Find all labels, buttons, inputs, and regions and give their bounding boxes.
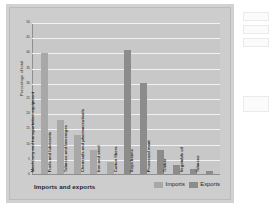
chart-legend: ImportsExports [154, 182, 220, 188]
y-axis-tick-label: 0 [28, 173, 30, 176]
legend-imports[interactable]: Imports [154, 182, 185, 188]
bar-category-label: Cotton fibers [114, 146, 118, 172]
margin-note-box [243, 96, 269, 112]
margin-notes [243, 12, 269, 51]
y-axis-tick-label: 50 [26, 21, 30, 24]
bar-category-label: Soya beans [130, 149, 134, 172]
legend-label: Exports [200, 182, 220, 188]
legend-label: Imports [166, 182, 185, 188]
bar-category-label: Timber [163, 158, 167, 172]
y-axis-title: Percentage of total [20, 61, 24, 96]
x-axis-title: Imports and exports [34, 184, 95, 190]
y-axis-tick-label: 40 [26, 52, 30, 55]
margin-note-box [243, 25, 269, 34]
legend-exports[interactable]: Exports [189, 182, 220, 188]
bar-category-label: Machinery and transportation equipment [31, 92, 35, 172]
y-axis-tick-label: 35 [26, 67, 30, 70]
bar[interactable] [206, 171, 213, 174]
bar-category-label: Tobacco and beverages [64, 125, 68, 172]
bar-slot: Vegetable oil [185, 23, 202, 174]
margin-note-box [243, 12, 269, 21]
bar-category-label: Iron and steel [97, 145, 101, 172]
legend-swatch [154, 182, 163, 188]
x-axis-line [32, 174, 220, 175]
plot-area: 05101520253035404550 Machinery and trans… [32, 23, 220, 175]
bar-slot: Tobacco [201, 23, 218, 174]
bar-slot: Processed meat [152, 23, 169, 174]
y-axis-tick-label: 30 [26, 82, 30, 85]
margin-note-box [243, 38, 269, 47]
chart-screenshot: Percentage of total 05101520253035404550… [0, 0, 273, 207]
chart-figure: Percentage of total 05101520253035404550… [9, 7, 231, 200]
bar-group: Machinery and transportation equipmentFu… [33, 23, 220, 174]
bar-category-label: Fuels and lubricants [47, 132, 51, 172]
bar-category-label: Tobacco [196, 155, 200, 172]
bar-category-label: Vegetable oil [180, 147, 184, 172]
legend-swatch [189, 182, 198, 188]
y-axis-tick-label: 45 [26, 36, 30, 39]
bar-category-label: Processed meat [147, 140, 151, 172]
bar-category-label: Chemicals and pharmaceuticals [80, 109, 84, 172]
